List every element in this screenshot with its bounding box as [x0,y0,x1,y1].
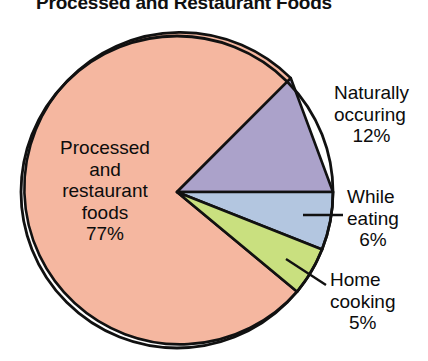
slice-label-naturally-occuring: Naturally occuring 12% [334,82,409,147]
slice-value-naturally-occuring: 12% [334,125,409,147]
pie-chart-figure: Processed and Restaurant Foods Processed… [0,0,428,361]
slice-label-while-eating: While eating 6% [347,186,399,251]
slice-label-processed-and-restaurant-foods: Processed and restaurant foods 77% [26,137,184,245]
slice-value-while-eating: 6% [347,229,399,251]
slice-label-line: restaurant [26,180,184,202]
slice-label-line: eating [347,208,399,230]
slice-label-line: foods [26,202,184,224]
slice-label-line: Processed [26,137,184,159]
slice-label-line: and [26,159,184,181]
slice-value-home-cooking: 5% [330,312,396,334]
slice-label-line: While [347,186,399,208]
slice-value-processed: 77% [26,223,184,245]
slice-label-line: cooking [330,291,396,313]
slice-label-line: Naturally [334,82,409,104]
slice-label-line: occuring [334,104,409,126]
slice-label-home-cooking: Home cooking 5% [330,269,396,334]
slice-label-line: Home [330,269,396,291]
